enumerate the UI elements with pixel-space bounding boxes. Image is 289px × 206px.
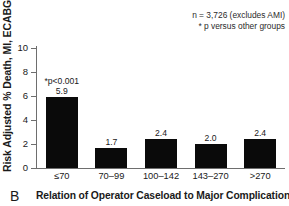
y-axis-tick <box>31 96 36 97</box>
figure-panel-b: Risk Adjusted % Death, MI, ECABG 0246810… <box>0 0 289 206</box>
x-axis-tick-label: 70–99 <box>83 171 139 182</box>
bar-significance-note: *p<0.001 <box>38 76 86 86</box>
bar <box>145 139 177 168</box>
y-axis-tick <box>31 72 36 73</box>
bar-value-label: 1.7 <box>91 137 131 147</box>
sample-size-note: n = 3,726 (excludes AMI) <box>192 10 285 21</box>
bar <box>95 148 127 168</box>
p-value-footnote: * p versus other groups <box>192 21 285 32</box>
panel-letter: B <box>10 188 19 204</box>
x-axis-line <box>36 168 285 169</box>
x-axis-tick-label: 143–270 <box>183 171 239 182</box>
figure-title: Relation of Operator Caseload to Major C… <box>36 189 285 203</box>
y-axis-line <box>36 46 37 169</box>
y-axis-tick <box>31 144 36 145</box>
x-axis-tick-label: 100–142 <box>133 171 189 182</box>
y-axis-tick <box>31 48 36 49</box>
bar-value-label: 2.0 <box>191 133 231 143</box>
y-axis-tick <box>31 168 36 169</box>
chart-annotations: n = 3,726 (excludes AMI) * p versus othe… <box>192 10 285 32</box>
bar-value-label: 2.4 <box>240 128 280 138</box>
y-axis-tick <box>31 120 36 121</box>
bar <box>195 144 227 168</box>
x-axis-tick-label: ≤70 <box>34 171 90 182</box>
x-axis-tick-label: >270 <box>232 171 288 182</box>
bar-value-label: 2.4 <box>141 128 181 138</box>
bar <box>46 97 78 168</box>
bar-value-label: 5.9 <box>42 86 82 96</box>
bar <box>244 139 276 168</box>
y-axis-label: Risk Adjusted % Death, MI, ECABG <box>0 0 14 172</box>
